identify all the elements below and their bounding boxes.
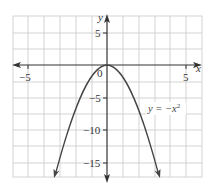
y-tick-label-5: 5 [95, 27, 101, 39]
equation-superscript: 2 [177, 102, 181, 110]
y-tick-label-neg5: −5 [89, 92, 101, 104]
y-axis-label: y [97, 11, 103, 23]
x-axis-label: x [195, 62, 201, 74]
origin-label: 0 [97, 67, 103, 79]
parabola-chart: x y −5 0 5 5 −5 −10 −15 y = −x2 [0, 0, 209, 185]
x-tick-label-5: 5 [183, 71, 189, 83]
y-tick-label-neg10: −10 [83, 124, 101, 136]
y-tick-label-neg15: −15 [83, 157, 101, 169]
x-tick-label-neg5: −5 [19, 71, 31, 83]
equation-label: y = −x2 [147, 102, 181, 114]
equation-text: y = −x [147, 103, 177, 114]
